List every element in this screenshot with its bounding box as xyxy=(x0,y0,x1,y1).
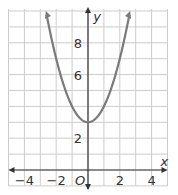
svg-text:−2: −2 xyxy=(47,173,66,188)
svg-text:8: 8 xyxy=(74,36,82,51)
svg-text:x: x xyxy=(159,154,168,169)
axes xyxy=(9,7,168,190)
tick-labels: −4−224268xyO xyxy=(15,9,169,188)
svg-text:2: 2 xyxy=(116,173,124,188)
svg-text:2: 2 xyxy=(74,131,82,146)
parabola-graph: −4−224268xyO xyxy=(0,0,178,195)
svg-text:y: y xyxy=(92,9,101,24)
svg-text:−4: −4 xyxy=(15,173,34,188)
svg-text:6: 6 xyxy=(74,68,82,83)
svg-text:O: O xyxy=(75,173,85,188)
svg-text:4: 4 xyxy=(147,173,155,188)
